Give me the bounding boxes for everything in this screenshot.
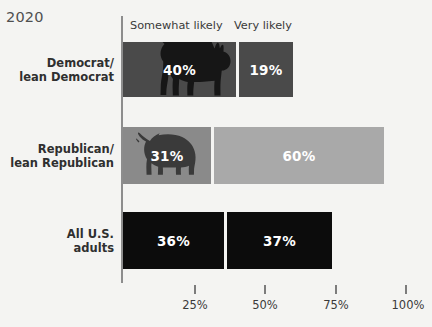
x-axis-tick-25 xyxy=(194,285,196,294)
bar-segment-democrat-somewhat-likely[interactable]: 40% xyxy=(123,42,236,97)
bar-value-all-us-adults-somewhat-likely: 36% xyxy=(123,233,224,249)
year-label: 2020 xyxy=(6,9,44,25)
row-label-democrat-line1: Democrat/ xyxy=(47,56,114,70)
column-header-somewhat-likely: Somewhat likely xyxy=(130,19,223,32)
x-axis-tick-100 xyxy=(405,285,407,294)
row-label-all-us-adults: All U.S. adults xyxy=(2,227,114,255)
bar-value-republican-very-likely: 60% xyxy=(214,148,384,164)
bar-row-democrat: Democrat/ lean Democrat 40% 19% xyxy=(0,42,432,97)
bar-segment-all-us-adults-very-likely[interactable]: 37% xyxy=(227,212,332,269)
bar-value-republican-somewhat-likely: 31% xyxy=(123,148,211,164)
x-axis-label-50: 50% xyxy=(252,298,278,312)
x-axis-tick-75 xyxy=(335,285,337,294)
x-axis-label-100: 100% xyxy=(392,298,425,312)
row-label-republican: Republican/ lean Republican xyxy=(2,142,114,170)
bar-segment-republican-somewhat-likely[interactable]: 31% xyxy=(123,127,211,184)
x-axis-tick-50 xyxy=(264,285,266,294)
x-axis-label-25: 25% xyxy=(182,298,208,312)
stacked-bar-chart: 2020 Somewhat likely Very likely Democra… xyxy=(0,0,432,327)
bar-row-republican: Republican/ lean Republican 31% 60% xyxy=(0,127,432,184)
row-label-all-us-adults-line1: All U.S. xyxy=(67,227,114,241)
row-label-all-us-adults-line2: adults xyxy=(74,241,114,255)
row-label-republican-line1: Republican/ xyxy=(38,142,114,156)
row-label-democrat-line2: lean Democrat xyxy=(19,70,114,84)
bar-value-democrat-somewhat-likely: 40% xyxy=(123,62,236,78)
bar-segment-republican-very-likely[interactable]: 60% xyxy=(214,127,384,184)
x-axis-label-75: 75% xyxy=(323,298,349,312)
row-label-republican-line2: lean Republican xyxy=(10,156,114,170)
row-label-democrat: Democrat/ lean Democrat xyxy=(2,56,114,84)
column-header-very-likely: Very likely xyxy=(234,19,292,32)
bar-row-all-us-adults: All U.S. adults 36% 37% xyxy=(0,212,432,269)
bar-value-all-us-adults-very-likely: 37% xyxy=(227,233,332,249)
bar-value-democrat-very-likely: 19% xyxy=(239,62,293,78)
bar-segment-all-us-adults-somewhat-likely[interactable]: 36% xyxy=(123,212,224,269)
bar-segment-democrat-very-likely[interactable]: 19% xyxy=(239,42,293,97)
